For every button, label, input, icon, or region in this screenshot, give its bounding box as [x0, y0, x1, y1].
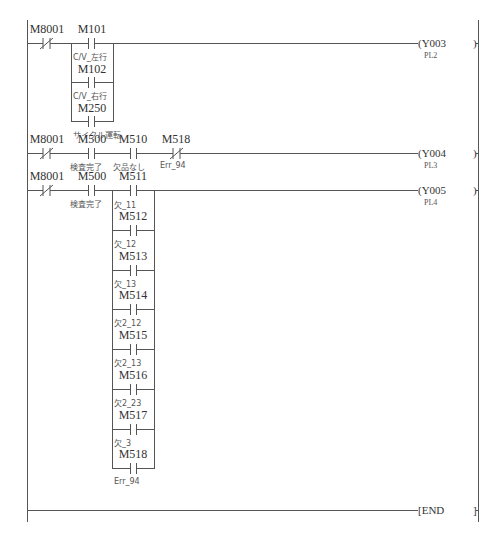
- contact-m514-label: M514: [119, 288, 148, 303]
- end-instruction-close: ]: [473, 504, 477, 516]
- contact-m102-comment: C/V_右行: [73, 90, 107, 101]
- contact-m101-label: M101: [78, 22, 107, 37]
- contact-m515-comment: 欠2_13: [114, 357, 141, 368]
- contact-m102-label: M102: [78, 62, 107, 77]
- contact-m8001-label: M8001: [30, 169, 65, 184]
- contact-m101-comment: C/V_左行: [73, 51, 107, 62]
- coil-y005-label: (Y005: [418, 184, 446, 196]
- contact-m511-label: M511: [119, 169, 147, 184]
- contact-m500-comment: 検査完了: [70, 198, 102, 209]
- end-instruction-label: [END: [418, 504, 444, 516]
- rung-3: [27, 185, 478, 474]
- contact-m250-label: M250: [78, 101, 107, 116]
- rung-2: [27, 148, 478, 159]
- contact-m518-comment: Err_94: [114, 477, 140, 486]
- coil-y004-close: ): [473, 147, 477, 159]
- contact-m518-label: M518: [162, 132, 191, 147]
- coil-y005-comment: PL4: [424, 198, 437, 207]
- coil-y004-comment: PL3: [424, 161, 437, 170]
- contact-m516-comment: 欠2_23: [114, 397, 141, 408]
- contact-m515-label: M515: [119, 328, 148, 343]
- contact-m518-comment: Err_94: [160, 161, 186, 170]
- contact-m513-label: M513: [119, 249, 148, 264]
- coil-y003-comment: PL2: [424, 51, 437, 60]
- coil-y003-close: ): [473, 37, 477, 49]
- contact-m510-label: M510: [119, 132, 148, 147]
- contact-m516-label: M516: [119, 368, 148, 383]
- contact-m512-label: M512: [119, 209, 148, 224]
- contact-m500-label: M500: [78, 132, 107, 147]
- ladder-diagram: [0, 0, 503, 546]
- contact-m514-comment: 欠2_12: [114, 317, 141, 328]
- contact-m517-label: M517: [119, 408, 148, 423]
- coil-y005-close: ): [473, 184, 477, 196]
- coil-y003-label: (Y003: [418, 37, 446, 49]
- contact-m512-comment: 欠_12: [114, 238, 136, 249]
- contact-m518-label: M518: [119, 447, 148, 462]
- contact-m8001-label: M8001: [30, 22, 65, 37]
- contact-m8001-label: M8001: [30, 132, 65, 147]
- coil-y004-label: (Y004: [418, 147, 446, 159]
- contact-m500-label: M500: [78, 169, 107, 184]
